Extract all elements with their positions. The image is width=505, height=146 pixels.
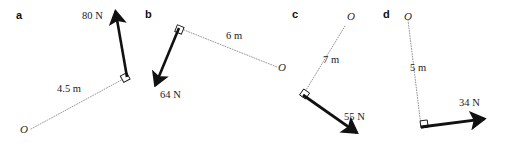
figure-vector-canvas <box>0 0 505 146</box>
panel-d-distance-label: 5 m <box>410 63 426 74</box>
panel-letter-a: a <box>16 10 22 21</box>
panel-letter-b: b <box>145 9 152 20</box>
panel-d-origin-label: O <box>404 11 412 22</box>
panel-d-force-label: 34 N <box>459 98 480 109</box>
panel-b-force-label: 64 N <box>160 90 181 101</box>
panel-c-origin-label: O <box>347 11 355 22</box>
panel-a-geometry <box>31 11 130 129</box>
panel-d-force-vector <box>421 119 485 127</box>
panel-a-origin-label: O <box>20 124 28 135</box>
panel-b-force-vector <box>155 28 179 86</box>
panel-a-force-vector <box>116 11 128 77</box>
panel-a-distance-label: 4.5 m <box>57 84 81 95</box>
panel-c-force-label: 55 N <box>344 112 365 123</box>
panel-letter-c: c <box>292 9 298 20</box>
panel-b-distance-label: 6 m <box>226 31 242 42</box>
panel-letter-d: d <box>383 9 390 20</box>
panel-a-force-label: 80 N <box>82 11 103 22</box>
panel-c-distance-label: 7 m <box>323 55 339 66</box>
panel-b-origin-label: O <box>278 62 286 73</box>
panel-b-geometry <box>155 25 277 86</box>
panel-d-geometry <box>408 20 485 128</box>
physics-torque-figure: a 80 N 4.5 m O b 6 m O 64 N c O 7 m 55 N… <box>0 0 505 146</box>
